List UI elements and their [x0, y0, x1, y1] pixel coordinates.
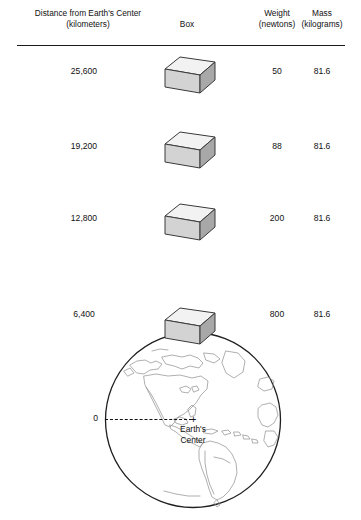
table-row-3-distance: 12,800: [22, 213, 146, 224]
table-row-4-mass: 81.6: [285, 309, 359, 320]
zero-distance-label: 0: [78, 413, 98, 424]
column-header-box: Box: [152, 19, 222, 30]
table-row-1-mass: 81.6: [285, 66, 359, 77]
header-divider-rule: [17, 45, 345, 46]
box-icon-row-3: [163, 202, 217, 244]
column-header-mass: Mass (kilograms): [285, 8, 359, 29]
column-header-distance: Distance from Earth's Center (kilometers…: [8, 8, 168, 29]
column-header-distance-line2: (kilometers): [8, 19, 168, 30]
table-row-3-mass: 81.6: [285, 213, 359, 224]
column-header-distance-line1: Distance from Earth's Center: [8, 8, 168, 19]
column-header-mass-line1: Mass: [285, 8, 359, 19]
column-header-box-line1: Box: [152, 19, 222, 30]
earth-center-label: Earth's Center: [153, 424, 233, 445]
box-icon-row-1: [163, 55, 217, 97]
table-row-2-distance: 19,200: [22, 141, 146, 152]
table-row-2-mass: 81.6: [285, 141, 359, 152]
earth-radius-dashed-line: [105, 419, 192, 420]
column-header-mass-line2: (kilograms): [285, 19, 359, 30]
earth-center-label-line2: Center: [153, 435, 233, 446]
earth-center-label-line1: Earth's: [153, 424, 233, 435]
table-row-4-distance: 6,400: [22, 309, 146, 320]
box-icon-row-2: [163, 130, 217, 172]
table-row-1-distance: 25,600: [22, 66, 146, 77]
box-icon-row-4: [163, 306, 217, 348]
physics-diagram-figure: Distance from Earth's Center (kilometers…: [0, 0, 361, 520]
